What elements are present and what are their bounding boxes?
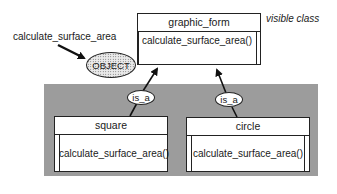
is-a-relation-circle: is_a xyxy=(215,92,243,107)
class-methods-circle: calculate_surface_area() xyxy=(187,136,309,171)
visible-class-label: visible class xyxy=(266,13,319,24)
class-square: square calculate_surface_area() xyxy=(54,116,168,172)
method-label: calculate_surface_area() xyxy=(59,148,169,159)
class-name-circle: circle xyxy=(187,118,309,136)
method-label: calculate_surface_area() xyxy=(193,148,303,159)
class-graphic-form: graphic_form calculate_surface_area() xyxy=(137,13,261,65)
is-a-relation-square: is_a xyxy=(127,90,155,105)
message-label: calculate_surface_area xyxy=(13,31,116,42)
class-name-square: square xyxy=(55,117,167,135)
object-instance: OBJECT xyxy=(86,52,136,78)
class-methods-graphic-form: calculate_surface_area() xyxy=(138,32,260,64)
method-label: calculate_surface_area() xyxy=(142,35,252,46)
class-name-graphic-form: graphic_form xyxy=(138,14,260,32)
class-methods-square: calculate_surface_area() xyxy=(55,135,167,171)
class-circle: circle calculate_surface_area() xyxy=(186,117,310,172)
object-label: OBJECT xyxy=(92,60,129,71)
